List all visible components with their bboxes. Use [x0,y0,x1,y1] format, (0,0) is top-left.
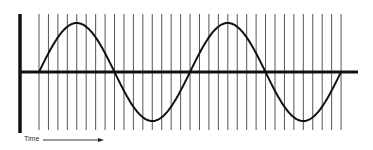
time-arrow-head-icon [98,138,104,142]
x-axis-label: Time [24,135,39,142]
sampled-sine-wave-diagram [0,0,373,150]
